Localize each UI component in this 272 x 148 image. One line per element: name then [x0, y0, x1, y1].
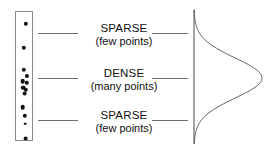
annotation-subtitle: (few points) — [78, 35, 170, 47]
annotation-title: DENSE — [78, 67, 170, 80]
data-point — [21, 68, 25, 72]
data-point — [24, 122, 27, 125]
leader-line-left — [38, 120, 78, 121]
diagram-canvas: SPARSE (few points) DENSE (many points) … — [0, 0, 272, 148]
data-point — [23, 114, 27, 118]
data-point — [24, 80, 28, 84]
annotation-dense-middle: DENSE (many points) — [78, 67, 170, 92]
normal-distribution-chart — [188, 4, 272, 146]
point-scatter-column — [15, 11, 33, 141]
data-point — [22, 46, 26, 50]
data-point — [23, 22, 27, 26]
annotation-title: SPARSE — [78, 109, 170, 122]
data-point — [24, 73, 28, 77]
annotation-title: SPARSE — [78, 22, 170, 35]
bell-curve-svg — [188, 4, 272, 146]
annotation-subtitle: (few points) — [78, 122, 170, 134]
annotation-sparse-top: SPARSE (few points) — [78, 22, 170, 47]
annotation-subtitle: (many points) — [78, 80, 170, 92]
gaussian-curve-path — [194, 10, 262, 144]
leader-line-left — [38, 78, 78, 79]
leader-line-left — [38, 33, 78, 34]
data-point — [22, 91, 27, 96]
annotation-sparse-bottom: SPARSE (few points) — [78, 109, 170, 134]
data-point — [20, 105, 25, 110]
data-point — [23, 136, 28, 141]
